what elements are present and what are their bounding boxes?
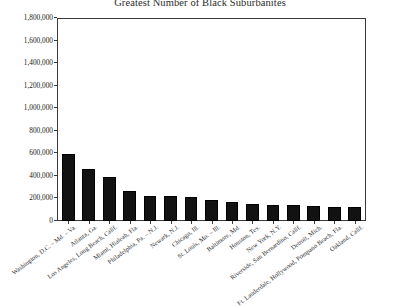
bar-column — [82, 19, 95, 221]
bar-column — [185, 19, 198, 221]
y-axis-tick-label: 200,000 — [0, 192, 57, 204]
bar — [246, 204, 259, 221]
bar — [123, 191, 136, 221]
bar — [205, 200, 218, 221]
bar-column — [307, 19, 320, 221]
y-tick-text: 600,000 — [29, 148, 57, 157]
x-axis-category-label: Washington, D.C. – Md. – Va. — [11, 223, 78, 276]
bar — [82, 169, 95, 221]
bar — [185, 197, 198, 221]
y-tick-text: 1,000,000 — [24, 103, 57, 112]
bar-column — [246, 19, 259, 221]
y-tick-text: 1,200,000 — [24, 81, 57, 90]
y-axis-tick-label: 1,200,000 — [0, 80, 57, 92]
y-tick-text: 1,400,000 — [24, 58, 57, 67]
y-axis-tick-label: 800,000 — [0, 125, 57, 137]
y-axis-tick-label: 1,400,000 — [0, 57, 57, 69]
bar-column — [328, 19, 341, 221]
bar — [62, 154, 75, 221]
bar — [307, 206, 320, 221]
bar-column — [164, 19, 177, 221]
chart-title: Greatest Number of Black Suburbanites — [0, 0, 400, 9]
y-axis-tick-label: 1,800,000 — [0, 12, 57, 24]
figure-caption — [0, 297, 400, 305]
bar — [348, 207, 361, 221]
y-tick-text: 800,000 — [29, 126, 57, 135]
bar-column — [144, 19, 157, 221]
bar-column — [62, 19, 75, 221]
y-tick-text: 1,600,000 — [24, 36, 57, 45]
y-tick-text: 400,000 — [29, 171, 57, 180]
y-axis-tick-label: 1,600,000 — [0, 35, 57, 47]
bar-column — [123, 19, 136, 221]
y-axis-tick-label: 400,000 — [0, 170, 57, 182]
bar — [267, 205, 280, 221]
y-axis-tick-label: 600,000 — [0, 147, 57, 159]
bar — [103, 177, 116, 221]
bar-column — [287, 19, 300, 221]
bar-column — [103, 19, 116, 221]
bar — [144, 196, 157, 221]
bar — [328, 207, 341, 221]
y-tick-text: 200,000 — [29, 193, 57, 202]
y-axis-tick-label: 1,000,000 — [0, 102, 57, 114]
bar — [226, 202, 239, 221]
x-axis-labels: Washington, D.C. – Md. – Va.Atlanta, Ga.… — [0, 221, 400, 293]
y-axis: 1,800,0001,600,0001,400,0001,200,0001,00… — [0, 18, 57, 221]
bar — [164, 196, 177, 221]
bar-column — [348, 19, 361, 221]
y-tick-text: 1,800,000 — [24, 13, 57, 22]
bar-column — [205, 19, 218, 221]
bar — [287, 205, 300, 221]
bar-series — [58, 19, 365, 221]
bar-column — [226, 19, 239, 221]
bar-column — [267, 19, 280, 221]
